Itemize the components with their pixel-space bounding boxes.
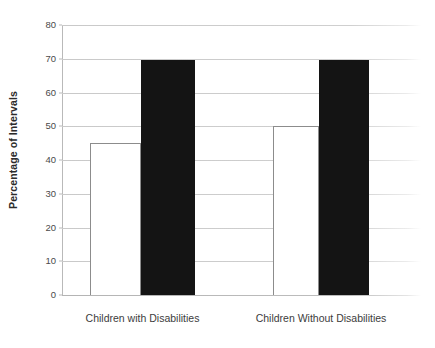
- y-axis-title-text: Percentage of Intervals: [7, 91, 19, 209]
- y-tick-label: 0: [51, 290, 56, 300]
- y-tick-mark-30: [59, 193, 62, 194]
- plot-area: 01020304050607080: [62, 25, 421, 295]
- y-tick-label: 50: [45, 122, 56, 132]
- gridline-0: [62, 295, 421, 296]
- x-axis-category-label: Children Without Disabilities: [256, 313, 387, 324]
- y-tick-label: 20: [45, 223, 56, 233]
- y-axis-title: Percentage of Intervals: [0, 0, 26, 300]
- bar-open-bar-group-1: [273, 126, 319, 295]
- bar-filled-bar-group-1: [319, 60, 369, 295]
- y-tick-mark-70: [59, 58, 62, 59]
- bar-open-bar-group-0: [90, 143, 141, 295]
- y-tick-label: 80: [45, 20, 56, 30]
- y-tick-mark-60: [59, 92, 62, 93]
- y-tick-label: 30: [45, 189, 56, 199]
- y-tick-mark-80: [59, 25, 62, 26]
- y-tick-mark-40: [59, 160, 62, 161]
- gridline-80: [62, 25, 421, 26]
- y-tick-label: 10: [45, 257, 56, 267]
- bar-chart: Percentage of Intervals 0102030405060708…: [0, 0, 435, 348]
- y-tick-mark-20: [59, 227, 62, 228]
- x-axis-category-label: Children with Disabilities: [86, 313, 200, 324]
- y-tick-mark-10: [59, 261, 62, 262]
- y-tick-label: 60: [45, 88, 56, 98]
- y-tick-mark-50: [59, 126, 62, 127]
- bar-filled-bar-group-0: [141, 60, 195, 295]
- y-tick-label: 70: [45, 54, 56, 64]
- y-tick-label: 40: [45, 155, 56, 165]
- y-tick-mark-0: [59, 295, 62, 296]
